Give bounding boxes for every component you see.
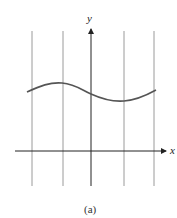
wave-diagram: y x (a) [0,0,177,218]
y-axis-label: y [86,12,92,24]
x-axis-label: x [169,144,175,156]
figure-caption: (a) [84,203,97,216]
